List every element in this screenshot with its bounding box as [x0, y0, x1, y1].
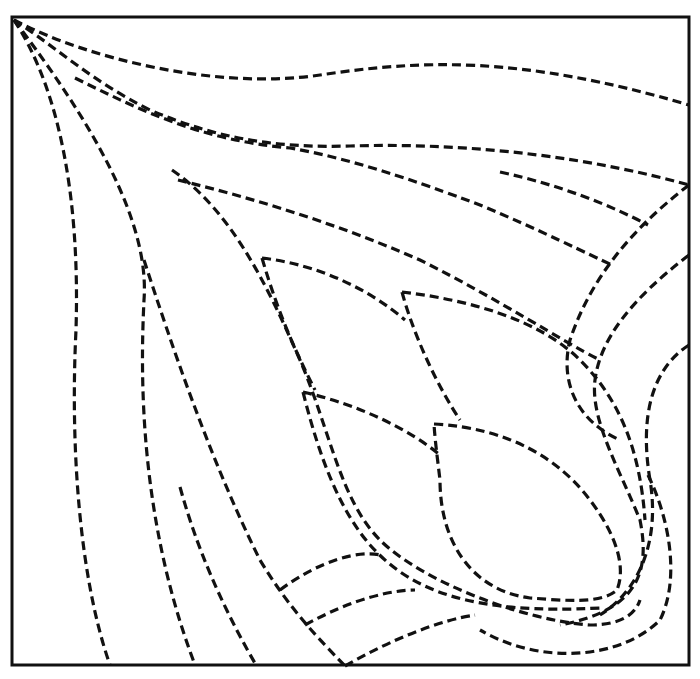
quilting-pattern-canvas [0, 0, 700, 679]
top-arc-2-stitch-line [14, 20, 689, 185]
dashed-stitch-lines [14, 20, 689, 666]
pattern-drawing [0, 0, 700, 679]
bottom-arc-3-stitch-line [345, 615, 475, 666]
leaf-1-stitch-line [262, 258, 405, 390]
leaf-4-stitch-line [434, 424, 620, 600]
bottom-arc-2-stitch-line [305, 590, 415, 625]
right-arc-2-stitch-line [560, 255, 689, 625]
pattern-frame [12, 17, 689, 665]
left-curve-1-stitch-line [14, 20, 110, 665]
inner-top-stitch-line [178, 180, 600, 360]
top-arc-4-stitch-line [500, 172, 648, 225]
right-arc-3-stitch-line [600, 345, 689, 615]
leaf-2-stitch-line [402, 292, 645, 520]
bottom-arc-1-stitch-line [280, 554, 380, 590]
top-arc-1-stitch-line [14, 20, 689, 105]
inner-curve-1-stitch-line [172, 170, 640, 625]
left-short-stitch-line [180, 487, 256, 665]
right-arc-1-stitch-line [567, 185, 689, 440]
top-arc-3-stitch-line [75, 78, 612, 265]
